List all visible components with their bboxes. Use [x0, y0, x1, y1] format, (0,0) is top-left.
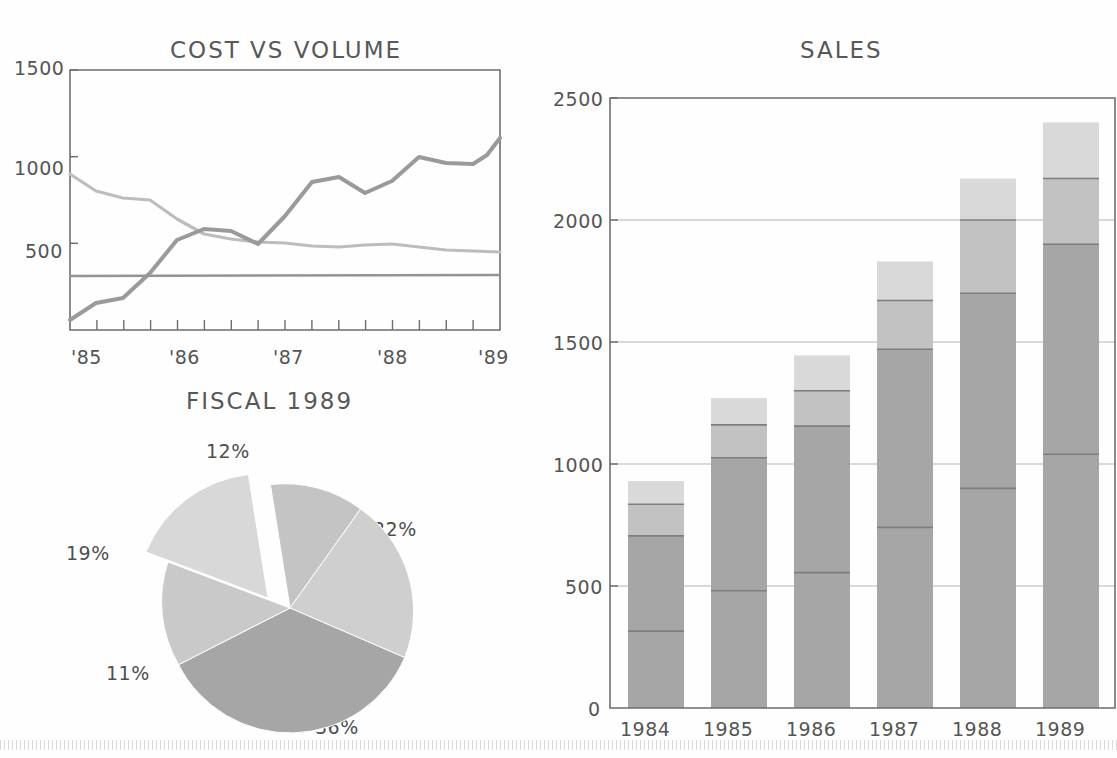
bar-gridlines [610, 220, 1115, 586]
bar-axes [610, 98, 1115, 708]
footer-dotted-rule [0, 740, 1117, 752]
bar-1988 [960, 179, 1016, 709]
bar-1987 [877, 262, 933, 709]
pie-chart-plot [0, 0, 560, 758]
bar-1989 [1043, 122, 1099, 708]
bar-chart-plot [540, 0, 1117, 758]
bar-1984 [628, 481, 684, 708]
bar-y-ticks [610, 98, 618, 586]
bar-1986 [794, 355, 850, 708]
dashboard-canvas: COST VS VOLUME 1500 1000 500 '85 '86 '87… [0, 0, 1117, 758]
bar-1985 [711, 398, 767, 708]
